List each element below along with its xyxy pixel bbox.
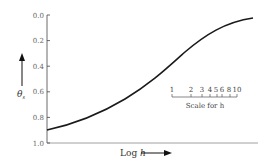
y-tick-label: 0.2 (33, 37, 44, 45)
y-tick-label: 0.6 (33, 88, 45, 96)
scale-label: 6 (220, 86, 225, 94)
chart: 0.0 0.2 0.4 0.6 0.8 1.0 θs Log h 1 2 (0, 0, 273, 163)
y-tick-label: 0.4 (33, 63, 45, 71)
scale-label: 3 (200, 86, 204, 94)
scale-inset: 1 2 3 4 5 6 8 10 Scale for h (170, 86, 242, 110)
y-arrow-icon (19, 53, 25, 86)
y-axis-label: θs (17, 89, 25, 100)
y-tick-label: 0.8 (33, 114, 44, 122)
scale-label: 5 (214, 86, 218, 94)
y-ticks (47, 15, 50, 143)
scale-label: 8 (227, 86, 231, 94)
scale-label: 10 (233, 86, 242, 94)
scale-label: 1 (170, 86, 174, 94)
y-tick-label: 0.0 (33, 12, 44, 20)
scale-label: 4 (208, 86, 213, 94)
y-tick-labels: 0.0 0.2 0.4 0.6 0.8 1.0 (33, 12, 45, 148)
scale-caption: Scale for h (186, 102, 225, 110)
y-tick-label: 1.0 (33, 140, 44, 148)
data-curve (47, 18, 253, 130)
scale-label: 2 (189, 86, 193, 94)
